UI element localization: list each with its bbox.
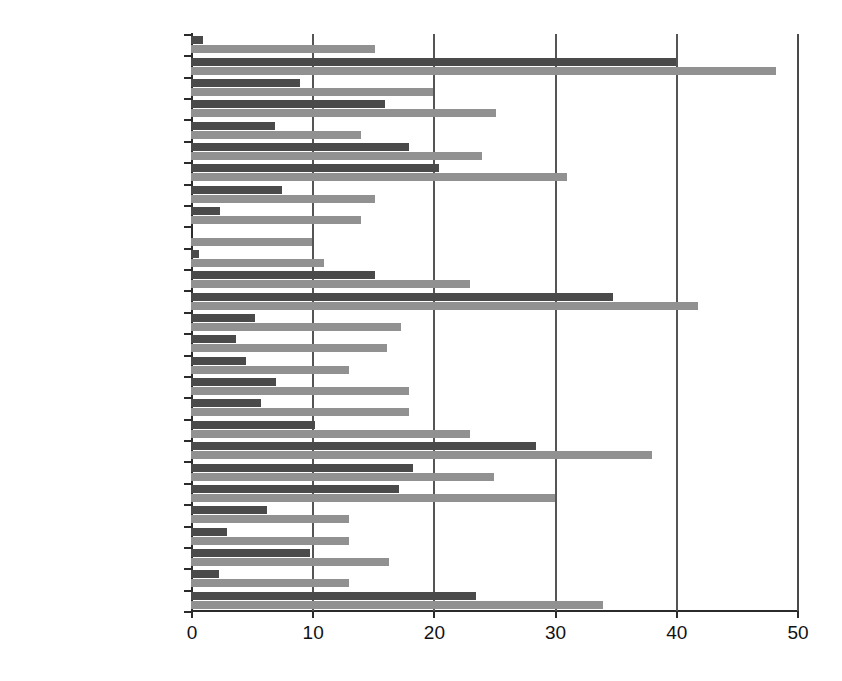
bar-series_a (191, 528, 227, 536)
y-tick-6 (184, 162, 191, 164)
y-tick-23 (184, 526, 191, 528)
bar-series_b (191, 259, 324, 267)
gridline-30 (555, 34, 557, 611)
bar-series_a (191, 399, 261, 407)
bar-series_b (191, 195, 375, 203)
x-tick-label-30: 30 (545, 622, 566, 644)
x-tick-50 (797, 611, 799, 618)
bar-series_b (191, 366, 349, 374)
y-tick-11 (184, 269, 191, 271)
bar-series_b (191, 430, 470, 438)
bar-series_a (191, 164, 439, 172)
bar-series_a (191, 58, 676, 66)
bar-series_b (191, 280, 470, 288)
y-tick-18 (184, 419, 191, 421)
bar-series_a (191, 79, 300, 87)
gridline-50 (797, 34, 799, 611)
y-tick-22 (184, 504, 191, 506)
bar-series_b (191, 45, 375, 53)
y-tick-12 (184, 290, 191, 292)
bar-series_b (191, 302, 698, 310)
y-tick-1 (184, 55, 191, 57)
bar-series_b (191, 131, 361, 139)
bar-series_a (191, 464, 413, 472)
x-tick-20 (433, 611, 435, 618)
x-tick-10 (312, 611, 314, 618)
y-tick-15 (184, 355, 191, 357)
bar-series_a (191, 549, 310, 557)
bar-series_b (191, 67, 776, 75)
y-tick-26 (184, 590, 191, 592)
y-tick-3 (184, 98, 191, 100)
bar-series_a (191, 122, 275, 130)
y-tick-27 (184, 611, 191, 613)
y-tick-2 (184, 77, 191, 79)
bar-series_b (191, 152, 482, 160)
bar-series_a (191, 442, 536, 450)
bar-series_a (191, 271, 375, 279)
x-tick-30 (555, 611, 557, 618)
x-tick-label-50: 50 (787, 622, 808, 644)
bar-series_b (191, 408, 409, 416)
x-tick-label-10: 10 (303, 622, 324, 644)
x-tick-label-20: 20 (424, 622, 445, 644)
bar-series_a (191, 293, 613, 301)
bar-series_b (191, 323, 401, 331)
bar-series_a (191, 335, 236, 343)
bar-series_a (191, 506, 267, 514)
bar-series_b (191, 387, 409, 395)
x-tick-0 (191, 611, 193, 618)
y-tick-10 (184, 248, 191, 250)
bar-series_a (191, 357, 246, 365)
bar-series_a (191, 485, 399, 493)
bar-series_b (191, 579, 349, 587)
y-tick-25 (184, 568, 191, 570)
bar-series_a (191, 143, 409, 151)
bar-series_b (191, 88, 433, 96)
bar-series_a (191, 570, 219, 578)
bar-series_b (191, 537, 349, 545)
y-tick-24 (184, 547, 191, 549)
y-tick-4 (184, 119, 191, 121)
y-tick-5 (184, 141, 191, 143)
x-tick-label-0: 0 (187, 622, 198, 644)
bar-series_b (191, 451, 652, 459)
y-tick-17 (184, 397, 191, 399)
plot-area (191, 34, 797, 611)
y-tick-19 (184, 440, 191, 442)
bar-series_a (191, 314, 255, 322)
bar-series_b (191, 238, 312, 246)
bar-chart: 01020304050 United KingdomSwedenSpainSlo… (0, 0, 842, 681)
bar-series_b (191, 494, 555, 502)
bar-series_a (191, 186, 282, 194)
bar-series_b (191, 173, 567, 181)
x-tick-40 (676, 611, 678, 618)
bar-series_b (191, 216, 361, 224)
bar-series_b (191, 109, 496, 117)
gridline-40 (676, 34, 678, 611)
y-tick-7 (184, 184, 191, 186)
y-tick-0 (184, 34, 191, 36)
y-tick-9 (184, 226, 191, 228)
bar-series_a (191, 207, 220, 215)
y-tick-21 (184, 483, 191, 485)
y-tick-13 (184, 312, 191, 314)
x-tick-label-40: 40 (666, 622, 687, 644)
y-tick-8 (184, 205, 191, 207)
bar-series_b (191, 601, 603, 609)
bar-series_b (191, 344, 387, 352)
bar-series_a (191, 250, 199, 258)
y-tick-14 (184, 333, 191, 335)
bar-series_b (191, 558, 389, 566)
gridline-20 (433, 34, 435, 611)
bar-series_a (191, 421, 315, 429)
bar-series_a (191, 378, 276, 386)
bar-series_b (191, 515, 349, 523)
bar-series_b (191, 473, 494, 481)
bar-series_a (191, 592, 476, 600)
bar-series_a (191, 36, 203, 44)
bar-series_a (191, 100, 385, 108)
y-tick-16 (184, 376, 191, 378)
y-tick-20 (184, 461, 191, 463)
